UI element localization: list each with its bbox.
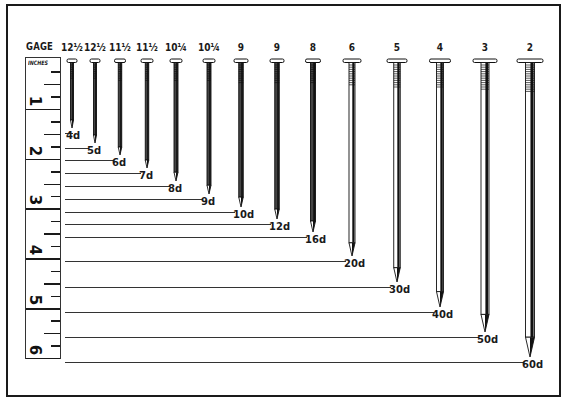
penny-size-label: 30d (389, 284, 410, 295)
nails-drawing (0, 0, 569, 406)
nail-20d (343, 59, 361, 256)
nail-6d (115, 59, 126, 155)
penny-size-label: 8d (168, 183, 182, 194)
nail-7d (141, 59, 153, 168)
penny-size-label: 20d (344, 258, 365, 269)
nail-50d (473, 59, 497, 332)
nail-9d (203, 59, 215, 194)
nail-40d (430, 59, 451, 307)
penny-size-label: 4d (66, 130, 80, 141)
penny-size-label: 6d (112, 157, 126, 168)
nail-12d (270, 59, 284, 219)
nail-10d (234, 59, 248, 207)
penny-size-label: 50d (477, 334, 498, 345)
penny-size-label: 9d (201, 196, 215, 207)
nail-30d (387, 59, 407, 282)
nail-60d (517, 59, 543, 357)
penny-size-label: 12d (269, 221, 290, 232)
penny-size-label: 5d (87, 145, 101, 156)
nail-16d (306, 59, 321, 232)
penny-size-label: 60d (522, 359, 543, 370)
penny-size-label: 7d (139, 170, 153, 181)
nail-5d (90, 59, 100, 143)
nail-8d (170, 59, 182, 181)
penny-size-label: 16d (305, 234, 326, 245)
penny-size-label: 40d (432, 309, 453, 320)
penny-size-label: 10d (233, 209, 254, 220)
nail-4d (67, 59, 77, 128)
